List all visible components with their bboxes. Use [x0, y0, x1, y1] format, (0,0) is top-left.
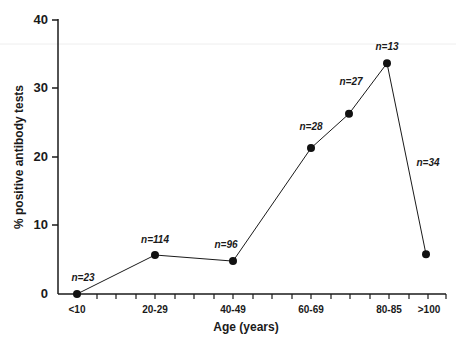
x-tick-label: 40-49 — [220, 304, 246, 315]
y-tick-label: 10 — [34, 217, 48, 232]
n-annotation: n=114 — [141, 234, 169, 245]
series-line — [77, 63, 426, 294]
data-point — [307, 144, 315, 152]
data-point — [345, 110, 353, 118]
x-tick-label: 60-69 — [298, 304, 324, 315]
data-point — [383, 59, 391, 67]
n-annotation: n=96 — [214, 239, 238, 250]
y-tick-label: 40 — [34, 12, 48, 27]
y-tick-label: 20 — [34, 149, 48, 164]
data-point — [422, 250, 430, 258]
x-tick-label: >100 — [418, 304, 441, 315]
sample-size-annotations: n=23 n=114 n=96 n=28 n=27 n=13 n=34 — [71, 41, 440, 283]
data-point — [151, 251, 159, 259]
x-axis: <10 20-29 40-49 60-69 80-85 >100 Age (ye… — [58, 294, 446, 334]
x-tick-label: 20-29 — [142, 304, 168, 315]
data-markers — [73, 59, 430, 298]
n-annotation: n=27 — [339, 76, 363, 87]
data-series — [73, 59, 430, 298]
n-annotation: n=13 — [375, 41, 399, 52]
data-point — [229, 257, 237, 265]
n-annotation: n=28 — [299, 121, 323, 132]
n-annotation: n=23 — [71, 272, 95, 283]
y-tick-label: 0 — [41, 286, 48, 301]
y-axis: 0 10 20 30 40 % positive antibody tests — [12, 12, 58, 301]
y-axis-title: % positive antibody tests — [12, 85, 26, 229]
x-tick-label: 80-85 — [376, 304, 402, 315]
data-point — [73, 290, 81, 298]
x-axis-title: Age (years) — [213, 320, 278, 334]
x-tick-label: <10 — [69, 304, 86, 315]
line-chart: 0 10 20 30 40 % positive antibody tests — [0, 0, 456, 345]
n-annotation: n=34 — [416, 157, 440, 168]
y-tick-label: 30 — [34, 80, 48, 95]
